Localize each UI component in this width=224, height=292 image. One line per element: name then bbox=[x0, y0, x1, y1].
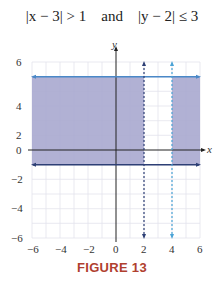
svg-text:−4: −4 bbox=[55, 243, 67, 255]
figure-caption: FIGURE 13 bbox=[0, 260, 224, 275]
svg-text:−2: −2 bbox=[11, 173, 23, 185]
svg-text:6: 6 bbox=[197, 243, 203, 255]
svg-text:4: 4 bbox=[16, 100, 22, 112]
svg-text:2: 2 bbox=[141, 243, 147, 255]
svg-text:−6: −6 bbox=[27, 243, 39, 255]
shaded-region-left bbox=[32, 77, 144, 165]
svg-text:4: 4 bbox=[169, 243, 175, 255]
axis-label-x: x bbox=[206, 143, 212, 155]
svg-text:2: 2 bbox=[16, 129, 22, 141]
shaded-region-right bbox=[172, 77, 200, 165]
svg-text:−4: −4 bbox=[11, 202, 23, 214]
svg-text:0: 0 bbox=[113, 243, 119, 255]
svg-text:6: 6 bbox=[16, 56, 22, 68]
svg-text:0: 0 bbox=[16, 144, 22, 156]
svg-text:−6: −6 bbox=[11, 232, 23, 244]
svg-text:−2: −2 bbox=[83, 243, 95, 255]
coordinate-plane: x y 642 0−2−4−6 −6−4−2 0246 bbox=[0, 0, 224, 260]
axis-label-y: y bbox=[111, 38, 117, 50]
